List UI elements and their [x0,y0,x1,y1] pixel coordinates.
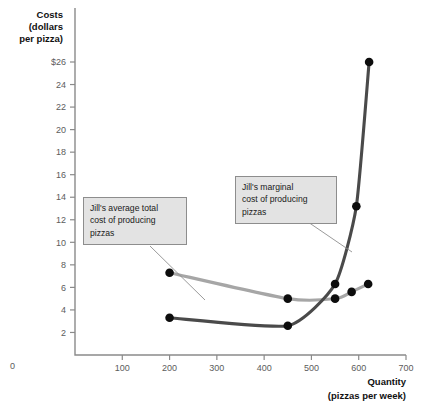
data-point-atc-200 [165,268,174,277]
annotation-average-total-cost: Jill's average total cost of producing p… [83,197,187,245]
y-tick-label-14: 14 [56,192,66,202]
data-point-mc-450 [283,321,292,330]
y-tick-label-4: 4 [61,305,66,315]
y-tick-label-10: 10 [56,238,66,248]
data-point-mc-200 [165,314,174,323]
y-tick-label-16: 16 [56,170,66,180]
annotation-atc-line-2: cost of producing [90,214,180,226]
x-axis-ticks: 100200300400500600700 [115,355,414,373]
annotation-atc-line-1: Jill's average total [90,202,180,214]
x-axis-title-line-1: Quantity [367,376,406,387]
annotation-mc-line-1: Jill's marginal [242,181,330,193]
x-tick-label-600: 600 [351,363,366,373]
data-point-atc-620 [364,280,373,289]
annotation-mc-line-3: pizzas [242,206,330,218]
data-point-mc-595 [352,202,361,211]
y-tick-label-6: 6 [61,283,66,293]
y-tick-label-8: 8 [61,260,66,270]
y-axis-title-line-1: Costs [37,9,63,20]
y-tick-label-12: 12 [56,215,66,225]
x-tick-label-300: 300 [209,363,224,373]
annotation-mc-line-2: cost of producing [242,193,330,205]
data-point-mc-622 [365,58,374,67]
data-point-mc-550 [331,280,340,289]
y-axis-ticks: 24681012141618202224$26 [51,57,75,337]
x-tick-label-500: 500 [304,363,319,373]
y-axis-title-line-3: per pizza) [19,33,63,44]
x-tick-label-100: 100 [115,363,130,373]
y-axis-title-line-2: (dollars [29,21,63,32]
x-tick-label-400: 400 [257,363,272,373]
origin-label: 0 [10,361,15,371]
cost-curves-chart: Costs (dollars per pizza) 24681012141618… [0,0,426,412]
leader-line-mc [308,222,352,252]
annotation-atc-line-3: pizzas [90,227,180,239]
y-tick-label-26: $26 [51,57,66,67]
x-axis-title-line-2: (pizzas per week) [328,390,406,401]
y-tick-label-24: 24 [56,80,66,90]
plot-canvas: Costs (dollars per pizza) 24681012141618… [0,0,426,412]
data-point-atc-550 [331,294,340,303]
leader-line-atc [150,246,205,300]
y-tick-label-20: 20 [56,125,66,135]
annotation-marginal-cost: Jill's marginal cost of producing pizzas [235,176,337,224]
data-point-atc-450 [283,294,292,303]
y-tick-label-18: 18 [56,147,66,157]
y-tick-label-22: 22 [56,102,66,112]
x-tick-label-700: 700 [398,363,413,373]
data-point-atc-585 [347,288,356,297]
y-tick-label-2: 2 [61,328,66,338]
x-tick-label-200: 200 [162,363,177,373]
